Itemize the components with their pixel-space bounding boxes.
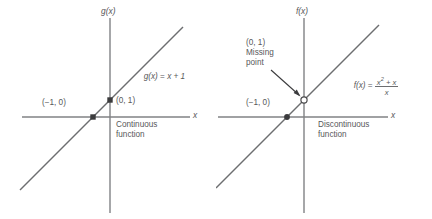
equation-g: g(x) = x + 1 [130,63,185,90]
annotation-coord-label: (0, 1) [246,38,265,48]
graph-panel-continuous: g(x) x g(x) = x + 1 (−1, 0) (0, 1) Conti… [0,0,216,219]
equation-f-fraction: x2 + xx [375,75,398,97]
graph-panel-discontinuous: f(x) x f(x) = x2 + xx (0, 1) Missing poi… [216,0,432,219]
point-label-0-1: (0, 1) [116,96,135,106]
point-marker-filled-neg1-0 [90,114,95,119]
horizontal-axis-label-x: x [391,110,395,120]
function-line-f [216,25,379,188]
point-marker-filled-neg1-0 [284,114,290,120]
annotation-leader-line [271,70,299,95]
point-label-neg1-0: (−1, 0) [246,98,270,108]
function-line-g [20,27,183,190]
horizontal-axis-label-x: x [193,110,197,120]
figure-two-function-graphs: g(x) x g(x) = x + 1 (−1, 0) (0, 1) Conti… [0,0,432,219]
point-label-neg1-0: (−1, 0) [42,98,66,108]
caption-discontinuous-line1: Discontinuous [318,120,369,130]
graph-canvas-continuous [0,0,216,219]
equation-g-rhs: x + 1 [167,72,185,81]
caption-continuous-line2: function [116,130,145,140]
caption-discontinuous-line2: function [318,130,347,140]
vertical-axis-label-gx: g(x) [101,6,115,16]
vertical-axis-label-fx: f(x) [296,6,308,16]
caption-continuous-line1: Continuous [116,120,157,130]
equation-g-lhs: g(x) [144,72,158,81]
graph-canvas-discontinuous [216,0,432,219]
point-marker-filled-0-1 [107,97,112,102]
equation-f-denominator: x [375,87,398,96]
annotation-missing-line2: point [246,58,264,68]
equation-f-numerator: x2 + x [375,75,398,88]
equation-f: f(x) = x2 + xx [340,66,398,106]
equation-f-lhs: f(x) [354,81,366,90]
annotation-missing-line1: Missing [246,48,274,58]
point-marker-hollow-0-1 [301,97,307,103]
equation-f-numerator-rest: + x [384,77,396,86]
